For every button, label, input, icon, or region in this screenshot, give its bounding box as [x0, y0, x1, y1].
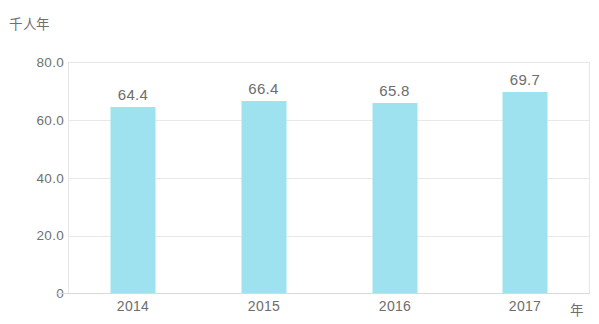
- y-tick-label-20: 20.0: [2, 228, 64, 243]
- bar-2017[interactable]: [503, 92, 548, 293]
- bar-value-2017: 69.7: [510, 71, 540, 88]
- y-tick-label-80: 80.0: [2, 55, 64, 70]
- x-axis-baseline: [56, 293, 590, 294]
- x-tick-label-2017: 2017: [509, 298, 541, 314]
- bar-group-2016: 65.8: [329, 62, 460, 293]
- x-tick-label-2016: 2016: [379, 298, 411, 314]
- x-axis-tick-labels: 2014 2015 2016 2017: [68, 298, 590, 324]
- y-axis-tick-labels: 80.0 60.0 40.0 20.0 0: [0, 0, 64, 324]
- bar-2016[interactable]: [372, 103, 417, 293]
- bar-value-2014: 64.4: [118, 86, 148, 103]
- x-tick-label-2015: 2015: [248, 298, 280, 314]
- y-tick-label-0: 0: [2, 286, 64, 301]
- y-tick-label-40: 40.0: [2, 171, 64, 186]
- bar-value-2016: 65.8: [379, 82, 409, 99]
- bar-chart: 千人年 80.0 60.0 40.0 20.0 0 64.4 66.4 65.8…: [0, 0, 599, 324]
- y-tick-label-60: 60.0: [2, 113, 64, 128]
- bar-2014[interactable]: [111, 107, 156, 293]
- x-axis-unit-label: 年: [570, 299, 583, 319]
- bar-group-2014: 64.4: [68, 62, 198, 293]
- x-tick-label-2014: 2014: [117, 298, 149, 314]
- bar-group-2015: 66.4: [198, 62, 329, 293]
- bars-layer: 64.4 66.4 65.8 69.7: [68, 62, 590, 293]
- bar-group-2017: 69.7: [460, 62, 590, 293]
- bar-value-2015: 66.4: [248, 80, 278, 97]
- bar-2015[interactable]: [241, 101, 286, 293]
